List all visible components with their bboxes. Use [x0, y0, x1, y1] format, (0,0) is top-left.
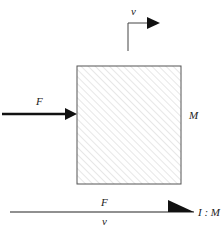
mass-block [77, 66, 181, 184]
velocity-arrowhead-icon [147, 17, 160, 29]
force-arrowhead-icon [65, 108, 77, 120]
inertia-element-label: I : M [197, 206, 221, 218]
bond-half-arrow-icon [168, 200, 194, 212]
bond-effort-label: F [100, 196, 108, 208]
velocity-arrow-stem [128, 23, 148, 51]
mass-force-diagram: v M F F v I : M [0, 0, 221, 227]
velocity-label: v [131, 5, 136, 17]
bond-graph: F v I : M [10, 196, 221, 227]
force-arrow: F [2, 95, 77, 120]
force-label: F [35, 95, 43, 107]
velocity-indicator: v [128, 5, 160, 51]
mass-label: M [188, 109, 199, 121]
bond-flow-label: v [102, 215, 107, 227]
